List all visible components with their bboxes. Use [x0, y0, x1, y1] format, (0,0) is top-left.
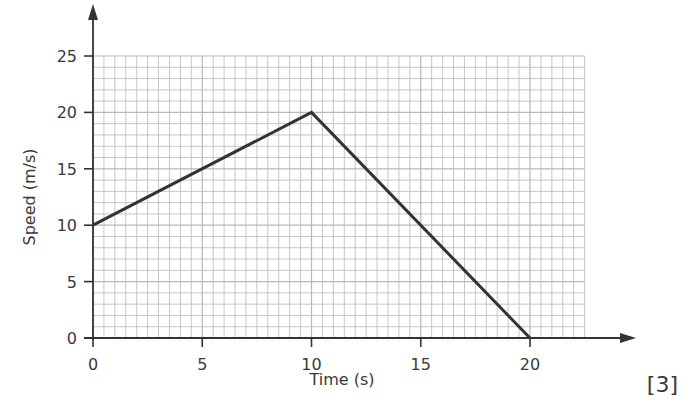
x-ticks: 05101520 — [88, 338, 540, 374]
x-tick-label: 15 — [411, 355, 431, 374]
x-tick-label: 20 — [520, 355, 540, 374]
x-axis-title: Time (s) — [308, 370, 374, 389]
y-tick-label: 10 — [57, 216, 77, 235]
y-tick-label: 0 — [67, 329, 77, 348]
y-ticks: 0510152025 — [57, 47, 93, 348]
axes — [84, 4, 636, 343]
x-tick-label: 5 — [197, 355, 207, 374]
y-tick-label: 15 — [57, 160, 77, 179]
x-axis-arrow-icon — [620, 333, 636, 343]
marks-label: [3] — [647, 372, 678, 397]
y-axis-arrow-icon — [88, 4, 98, 20]
y-axis-title: Speed (m/s) — [20, 148, 39, 245]
grid — [93, 56, 585, 338]
x-tick-label: 0 — [88, 355, 98, 374]
y-tick-label: 5 — [67, 273, 77, 292]
speed-time-graph: 05101520 0510152025 Time (s) Speed (m/s) — [0, 0, 690, 416]
y-tick-label: 20 — [57, 103, 77, 122]
y-tick-label: 25 — [57, 47, 77, 66]
